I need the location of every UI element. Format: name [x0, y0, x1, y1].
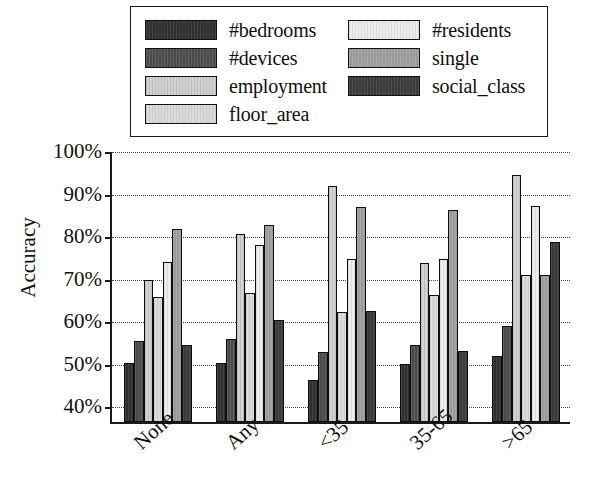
bar	[153, 297, 163, 422]
bar	[134, 341, 144, 422]
bar	[274, 320, 284, 422]
bar	[540, 275, 550, 422]
y-axis-tick-labels: 40%50%60%70%80%90%100%	[30, 140, 102, 430]
bar	[144, 280, 154, 422]
y-axis-tick-mark	[105, 152, 112, 154]
bar	[226, 339, 236, 422]
legend-swatch-bedrooms	[145, 20, 217, 40]
legend-item-devices: #devices	[145, 44, 334, 72]
y-axis-tick-mark	[105, 195, 112, 197]
bar	[172, 229, 182, 422]
legend-label-floor-area: floor_area	[229, 104, 309, 124]
y-axis-tick-label: 90%	[64, 184, 103, 205]
bar	[366, 311, 376, 422]
legend-swatch-social-class	[348, 76, 420, 96]
bar	[410, 345, 420, 422]
bar	[502, 326, 512, 422]
legend-item-social-class: social_class	[348, 72, 537, 100]
bar	[521, 275, 531, 422]
bar	[420, 263, 430, 422]
legend-swatch-residents	[348, 20, 420, 40]
bar	[318, 352, 328, 422]
bar	[492, 356, 502, 422]
y-axis-tick-mark	[105, 365, 112, 367]
legend-item-residents: #residents	[348, 16, 537, 44]
bar	[337, 312, 347, 423]
bar	[216, 363, 226, 422]
bar	[400, 364, 410, 422]
legend-swatch-devices	[145, 48, 217, 68]
bar	[182, 345, 192, 422]
bar	[550, 242, 560, 422]
y-axis-tick-label: 80%	[64, 226, 103, 247]
bar	[458, 351, 468, 422]
y-axis-tick-label: 70%	[64, 269, 103, 290]
y-axis-tick-mark	[105, 237, 112, 239]
bar	[328, 186, 338, 422]
bar	[356, 207, 366, 422]
legend-grid: #bedrooms #residents #devices single emp…	[145, 16, 537, 128]
legend-label-employment: employment	[229, 76, 327, 96]
bar	[308, 380, 318, 422]
legend-item-employment: employment	[145, 72, 334, 100]
bar	[163, 262, 173, 422]
bar	[264, 225, 274, 422]
bar	[236, 234, 246, 422]
legend-swatch-employment	[145, 76, 217, 96]
y-axis-tick-mark	[105, 280, 112, 282]
bar	[439, 259, 449, 422]
legend-item-bedrooms: #bedrooms	[145, 16, 334, 44]
chart-axes	[110, 152, 570, 424]
legend-item-floor-area: floor_area	[145, 100, 334, 128]
y-axis-tick-label: 50%	[64, 354, 103, 375]
bar	[255, 245, 265, 422]
legend-swatch-floor-area	[145, 104, 217, 124]
bar	[124, 363, 134, 422]
bar	[245, 293, 255, 422]
chart-plot-area: Accuracy 40%50%60%70%80%90%100% NoneAny<…	[0, 140, 601, 494]
legend-label-social-class: social_class	[432, 76, 525, 96]
legend-label-bedrooms: #bedrooms	[229, 20, 316, 40]
bar	[429, 295, 439, 423]
legend-item-single: single	[348, 44, 537, 72]
y-axis-tick-label: 100%	[53, 141, 102, 162]
legend-label-single: single	[432, 48, 479, 68]
bars-layer	[112, 152, 570, 422]
legend-label-devices: #devices	[229, 48, 297, 68]
bar	[448, 210, 458, 422]
chart-legend: #bedrooms #residents #devices single emp…	[130, 6, 548, 137]
y-axis-tick-mark	[105, 407, 112, 409]
y-axis-tick-label: 40%	[64, 396, 103, 417]
y-axis-tick-mark	[105, 322, 112, 324]
legend-label-residents: #residents	[432, 20, 511, 40]
bar	[531, 206, 541, 422]
bar	[347, 259, 357, 422]
bar	[512, 175, 522, 422]
y-axis-tick-label: 60%	[64, 311, 103, 332]
legend-swatch-single	[348, 48, 420, 68]
